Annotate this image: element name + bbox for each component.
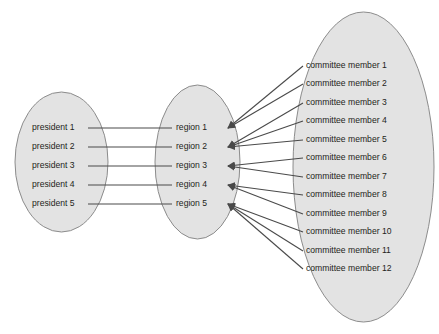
label-region-2: region 2: [176, 141, 207, 151]
label-region-1: region 1: [176, 122, 207, 132]
link-committee-12-region-5: [228, 204, 303, 269]
label-president-2: president 2: [32, 141, 75, 151]
label-committee-member-11: committee member 11: [306, 245, 391, 255]
label-committee-member-8: committee member 8: [306, 189, 387, 199]
label-president-3: president 3: [32, 160, 75, 170]
committee-ellipse: [293, 12, 434, 322]
label-committee-member-10: committee member 10: [306, 226, 392, 236]
label-region-5: region 5: [176, 198, 207, 208]
label-committee-member-7: committee member 7: [306, 171, 387, 181]
label-committee-member-9: committee member 9: [306, 208, 387, 218]
label-committee-member-5: committee member 5: [306, 134, 387, 144]
diagram-canvas: president 1 president 2 president 3 pres…: [0, 0, 439, 334]
link-committee-9-region-4: [228, 185, 303, 214]
label-committee-member-6: committee member 6: [306, 152, 387, 162]
label-region-4: region 4: [176, 179, 207, 189]
set-mapping-diagram: president 1 president 2 president 3 pres…: [0, 0, 439, 334]
label-president-5: president 5: [32, 198, 75, 208]
label-committee-member-3: committee member 3: [306, 97, 387, 107]
label-committee-member-12: committee member 12: [306, 263, 392, 273]
link-committee-8-region-4: [228, 185, 303, 195]
label-committee-member-2: committee member 2: [306, 78, 387, 88]
link-committee-1-region-1: [228, 66, 303, 128]
label-region-3: region 3: [176, 160, 207, 170]
label-president-4: president 4: [32, 179, 75, 189]
link-committee-2-region-1: [228, 84, 303, 128]
label-committee-member-1: committee member 1: [306, 60, 387, 70]
label-president-1: president 1: [32, 122, 75, 132]
label-committee-member-4: committee member 4: [306, 115, 387, 125]
committee-region-links: [228, 66, 303, 269]
